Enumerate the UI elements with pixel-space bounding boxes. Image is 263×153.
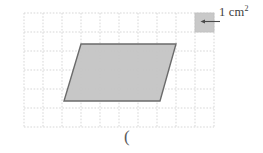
unit-area-exponent: 2 <box>244 4 248 13</box>
figure-canvas <box>0 0 263 153</box>
unit-area-value: 1 cm <box>219 5 244 19</box>
unit-area-label: 1 cm2 <box>219 5 249 20</box>
worksheet-figure: 1 cm2 ( <box>0 0 263 153</box>
answer-paren: ( <box>124 128 130 146</box>
parallelogram-shape <box>64 44 176 101</box>
